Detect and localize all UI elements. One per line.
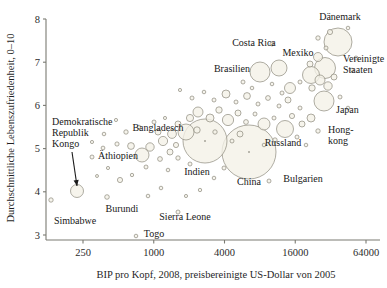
bubble-p54: [307, 61, 313, 67]
label-burundi: Burundi: [106, 203, 139, 214]
bubble-p41: [212, 98, 216, 102]
bubble-p55: [324, 46, 328, 50]
bubble-p30: [289, 113, 294, 118]
label-kongo: Kongo: [52, 138, 79, 149]
bubble-p04: [146, 143, 154, 151]
bubble-p74: [159, 186, 163, 190]
bubble-japan: [314, 91, 334, 111]
bubble-burundi: [105, 195, 110, 200]
label-togo: Togo: [144, 228, 164, 239]
y-axis-ticks: 345678: [35, 14, 46, 241]
bubble-p12: [106, 166, 109, 169]
label-sierra-leone: Sierra Leone: [159, 211, 211, 222]
label-bangladesch: Bangladesch: [132, 122, 183, 133]
y-axis-title: Durchschnittliche Lebenszufriedenheit, 0…: [5, 33, 16, 222]
label-russland: Russland: [265, 137, 302, 148]
bubble-p72: [198, 188, 201, 191]
bubble-p40: [222, 90, 230, 98]
bubble-p61: [338, 95, 342, 99]
label-vereinigte-staaten: Vereinigte: [343, 53, 385, 64]
x-tick-label: 1000: [143, 247, 164, 258]
bubble-p09: [144, 165, 148, 169]
bubble-p45: [241, 80, 245, 84]
bubble-p57: [327, 29, 332, 34]
bubble-p03: [128, 143, 135, 150]
bubble-p39: [234, 100, 238, 104]
bubble-p22: [206, 114, 214, 122]
label-japan: Japan: [336, 104, 359, 115]
label-costa-rica: Costa Rica: [232, 37, 276, 48]
bubble-bulgarien: [267, 179, 271, 183]
label-hongkong2: kong: [328, 135, 348, 146]
x-axis-ticks: 250100040001600064000: [75, 240, 379, 258]
bubble-p10: [130, 173, 133, 176]
bubble-p71: [166, 168, 170, 172]
bubble-p83: [194, 127, 200, 133]
plot-area: 345678 250100040001600064000 DänemarkCos…: [0, 0, 387, 288]
bubble-p23: [216, 107, 222, 113]
label-simbabwe: Simbabwe: [54, 215, 97, 226]
x-tick-label: 4000: [214, 247, 235, 258]
y-tick-label: 3: [35, 230, 40, 241]
bubble-center-china: [248, 151, 250, 153]
bubble-p37: [256, 102, 260, 106]
bubble-p07: [173, 142, 178, 147]
x-tick-label: 64000: [353, 247, 379, 258]
bubble-p76: [114, 118, 117, 121]
bubble-p31: [299, 121, 305, 127]
label-daenemark: Dänemark: [319, 11, 361, 22]
bubble-p52: [331, 74, 337, 80]
bubble-p84: [213, 130, 217, 134]
bubble-p34: [285, 97, 291, 103]
bubble-p51: [324, 82, 332, 90]
bubble-p77: [102, 132, 106, 136]
bubble-p80: [230, 139, 234, 143]
bubble-dr-kongo: [71, 185, 84, 198]
bubble-p21: [193, 107, 203, 117]
y-tick-label: 8: [35, 14, 40, 25]
bubble-p26: [244, 120, 249, 125]
label-hongkong: Hong-: [328, 124, 354, 135]
label-bulgarien: Bulgarien: [283, 173, 322, 184]
bubble-p78: [90, 140, 93, 143]
label-china: China: [237, 176, 261, 187]
label-vereinigte-staaten2: Staaten: [343, 64, 372, 75]
bubble-p46: [250, 86, 254, 90]
bubble-p48: [298, 80, 302, 84]
scatter-chart: 345678 250100040001600064000 DänemarkCos…: [0, 0, 387, 288]
bubble-p56: [316, 36, 320, 40]
bubble-p20: [186, 114, 193, 121]
bubble-p29: [272, 116, 276, 120]
bubble-p06: [167, 149, 173, 155]
bubble-p86: [270, 82, 274, 86]
bubble-p42: [202, 90, 206, 94]
bubble-simbabwe: [49, 198, 53, 202]
label-brasilien: Brasilien: [214, 63, 250, 74]
bubble-p43: [190, 96, 194, 100]
label-mexiko: Mexiko: [282, 47, 313, 58]
y-tick-label: 5: [35, 143, 40, 154]
bubble-p28: [258, 118, 270, 130]
bubble-p08: [158, 157, 163, 162]
bubble-russland: [277, 121, 294, 138]
bubble-p44: [178, 88, 181, 91]
bubble-p15: [124, 130, 128, 134]
bubble-p38: [244, 93, 251, 100]
bubble-p33: [298, 106, 302, 110]
label-aethiopien: Äthiopien: [98, 150, 138, 161]
label-demokratische: Demokratische: [52, 116, 113, 127]
y-tick-label: 7: [35, 57, 40, 68]
bubble-p79: [237, 131, 243, 137]
bubble-p25: [235, 110, 241, 116]
label-indien: Indien: [184, 166, 210, 177]
bubble-p64: [304, 143, 308, 147]
x-tick-label: 250: [75, 247, 91, 258]
bubble-p50: [315, 75, 325, 85]
y-tick-label: 6: [35, 100, 40, 111]
bubble-p58: [346, 26, 350, 30]
bubble-p24: [222, 114, 233, 125]
bubble-p32: [307, 114, 315, 122]
bubble-p53: [314, 53, 323, 62]
bubble-p18: [163, 116, 166, 119]
bubble-p67: [222, 166, 226, 170]
